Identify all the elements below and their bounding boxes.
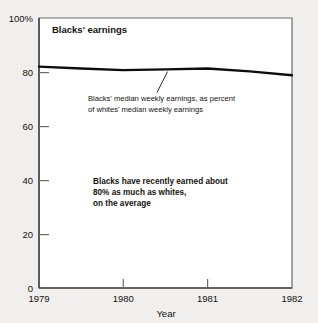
y-tick-label-80: 80 (22, 67, 33, 78)
callout-line-2: of whites' median weekly earnings (88, 105, 203, 114)
callout-line-1: Blacks' median weekly earnings, as perce… (88, 94, 236, 103)
y-tick-label-0: 0 (28, 283, 33, 294)
x-axis-title: Year (156, 308, 175, 319)
plot-area-background (39, 18, 292, 288)
x-tick-label-1980: 1980 (113, 293, 134, 304)
x-tick-label-1981: 1981 (197, 293, 218, 304)
y-tick-label-60: 60 (22, 121, 33, 132)
summary-note-line-3: on the average (93, 199, 151, 208)
summary-note-line-1: Blacks have recently earned about (93, 177, 228, 186)
chart-figure: 100% 80 60 40 20 0 1979 1980 1981 1982 Y… (0, 0, 318, 323)
y-tick-label-40: 40 (22, 175, 33, 186)
panel-title: Blacks' earnings (52, 24, 127, 35)
chart-svg: 100% 80 60 40 20 0 1979 1980 1981 1982 Y… (0, 0, 318, 323)
summary-note-line-2: 80% as much as whites, (93, 188, 186, 197)
x-tick-label-1979: 1979 (28, 293, 49, 304)
y-tick-label-100: 100% (9, 13, 34, 24)
x-tick-label-1982: 1982 (281, 293, 302, 304)
y-tick-label-20: 20 (22, 229, 33, 240)
